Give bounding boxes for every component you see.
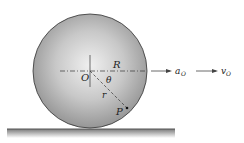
label-theta: θ xyxy=(106,75,112,85)
velocity-arrowhead-icon xyxy=(212,69,218,73)
label-R: R xyxy=(112,59,121,70)
ground-surface xyxy=(7,129,175,138)
label-vel-sub: O xyxy=(226,70,231,77)
label-O: O xyxy=(81,72,89,83)
rolling-wheel-diagram: R O θ r P a O v O xyxy=(0,0,244,143)
accel-arrowhead-icon xyxy=(166,69,172,73)
label-P: P xyxy=(115,106,123,117)
label-accel-sub: O xyxy=(181,70,186,77)
label-accel: a xyxy=(175,66,180,76)
label-r: r xyxy=(102,90,107,100)
point-P-dot xyxy=(126,107,129,110)
